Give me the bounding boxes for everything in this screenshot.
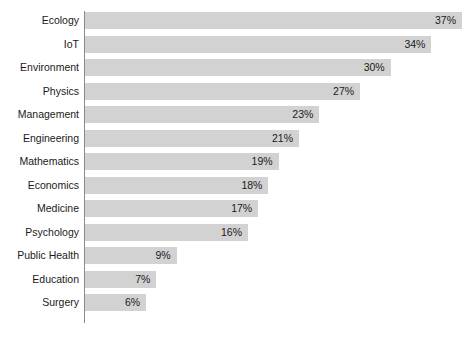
bar-value-label: 37% xyxy=(85,12,456,29)
bar-value-label: 21% xyxy=(85,130,293,147)
category-label: Physics xyxy=(0,83,79,100)
bar-row: Education7% xyxy=(0,271,476,288)
bar-value-label: 7% xyxy=(85,271,150,288)
bar-value-label: 16% xyxy=(85,224,242,241)
bar-value-label: 9% xyxy=(85,247,171,264)
category-label: Ecology xyxy=(0,12,79,29)
category-label: Environment xyxy=(0,59,79,76)
bar-row: Engineering21% xyxy=(0,130,476,147)
bar-row: Surgery6% xyxy=(0,294,476,311)
plot-area: Ecology37%IoT34%Environment30%Physics27%… xyxy=(0,0,476,337)
bar-value-label: 18% xyxy=(85,177,262,194)
bar-row: Economics18% xyxy=(0,177,476,194)
bar-value-label: 6% xyxy=(85,294,140,311)
category-label: IoT xyxy=(0,36,79,53)
bar-value-label: 30% xyxy=(85,59,385,76)
bar-value-label: 34% xyxy=(85,36,425,53)
bars-layer: Ecology37%IoT34%Environment30%Physics27%… xyxy=(0,0,476,337)
category-label: Medicine xyxy=(0,200,79,217)
category-label: Economics xyxy=(0,177,79,194)
category-label: Surgery xyxy=(0,294,79,311)
bar-row: Psychology16% xyxy=(0,224,476,241)
bar-value-label: 27% xyxy=(85,83,354,100)
bar-row: Management23% xyxy=(0,106,476,123)
category-label: Engineering xyxy=(0,130,79,147)
category-label: Psychology xyxy=(0,224,79,241)
bar-chart: Ecology37%IoT34%Environment30%Physics27%… xyxy=(0,0,476,337)
category-label: Education xyxy=(0,271,79,288)
bar-value-label: 23% xyxy=(85,106,313,123)
bar-row: Mathematics19% xyxy=(0,153,476,170)
bar-row: IoT34% xyxy=(0,36,476,53)
bar-row: Public Health9% xyxy=(0,247,476,264)
bar-value-label: 19% xyxy=(85,153,273,170)
bar-value-label: 17% xyxy=(85,200,252,217)
bar-row: Ecology37% xyxy=(0,12,476,29)
bar-row: Physics27% xyxy=(0,83,476,100)
category-label: Mathematics xyxy=(0,153,79,170)
category-label: Management xyxy=(0,106,79,123)
category-label: Public Health xyxy=(0,247,79,264)
bar-row: Environment30% xyxy=(0,59,476,76)
bar-row: Medicine17% xyxy=(0,200,476,217)
